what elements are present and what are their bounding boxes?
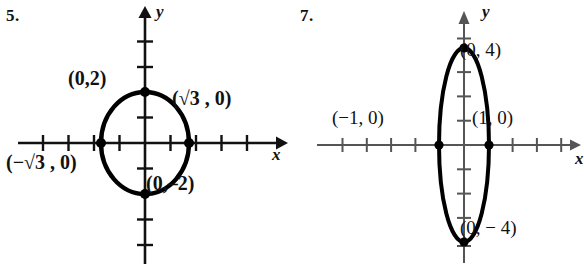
point-label-right-problem-5: (√3 , 0) xyxy=(172,88,231,108)
vertex-point-sqrt3-0 xyxy=(184,138,194,148)
y-axis-problem-5 xyxy=(139,6,152,264)
y-axis-label-problem-7: y xyxy=(482,3,490,20)
graph-panel-problem-7: 7. xyxy=(292,0,583,270)
vertex-point-0-neg4 xyxy=(459,237,468,246)
coordinate-plane-problem-7 xyxy=(292,0,583,270)
point-label-left-problem-5: (−√3 , 0) xyxy=(6,152,77,172)
y-axis-label-problem-5: y xyxy=(156,3,164,20)
point-label-top-problem-7: (0, 4) xyxy=(460,40,501,59)
vertex-point-0-2 xyxy=(140,87,150,97)
x-axis-label-problem-5: x xyxy=(272,146,281,163)
point-label-right-problem-7: (1, 0) xyxy=(472,108,513,127)
x-axis-label-problem-7: x xyxy=(575,150,584,167)
point-label-left-problem-7: (−1, 0) xyxy=(332,108,384,127)
point-label-top-problem-5: (0,2) xyxy=(68,68,106,88)
coordinate-plane-problem-5 xyxy=(0,0,292,270)
point-label-bottom-problem-7: (0, − 4) xyxy=(460,218,517,237)
x-axis-problem-7 xyxy=(317,140,581,151)
vertex-point-1-0 xyxy=(484,140,493,149)
vertex-point-neg-sqrt3-0 xyxy=(96,138,106,148)
graph-panel-problem-5: 5. xyxy=(0,0,292,270)
vertex-point-neg1-0 xyxy=(434,140,443,149)
point-label-bottom-problem-5: (0,–2) xyxy=(146,173,194,193)
